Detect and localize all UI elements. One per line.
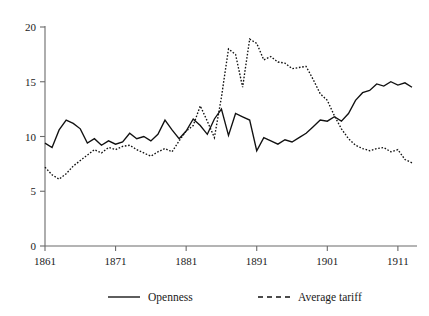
y-tick-label: 10 — [25, 131, 37, 143]
x-tick-label: 1871 — [105, 255, 127, 267]
y-axis-tick-group: 05101520 — [25, 21, 45, 252]
x-axis-tick-group: 186118711881189119011911 — [34, 246, 409, 267]
line-chart: 05101520 186118711881189119011911 Openne… — [0, 0, 429, 316]
chart-container: 05101520 186118711881189119011911 Openne… — [0, 0, 429, 316]
legend-label-average-tariff: Average tariff — [298, 291, 362, 304]
x-tick-label: 1861 — [34, 255, 56, 267]
series-line-average-tariff — [45, 39, 412, 179]
y-tick-label: 20 — [25, 21, 37, 33]
x-tick-label: 1901 — [316, 255, 338, 267]
y-tick-label: 0 — [31, 240, 37, 252]
x-tick-label: 1911 — [387, 255, 409, 267]
chart-legend: Openness Average tariff — [108, 291, 362, 304]
x-tick-label: 1891 — [246, 255, 268, 267]
y-tick-label: 15 — [25, 76, 37, 88]
y-tick-label: 5 — [31, 185, 37, 197]
series-line-openness — [45, 82, 412, 151]
legend-label-openness: Openness — [148, 291, 193, 304]
x-tick-label: 1881 — [175, 255, 197, 267]
